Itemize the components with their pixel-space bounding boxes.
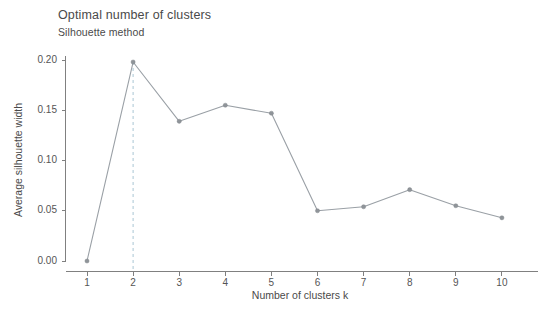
x-tick-label: 6 [315,277,321,288]
data-point [177,119,181,123]
y-tick-label: 0.10 [38,154,58,165]
x-tick-label: 4 [223,277,229,288]
y-tick-group: 0.000.050.100.150.20 [38,54,66,266]
x-tick-group: 12345678910 [84,272,508,289]
silhouette-series-line [87,62,502,261]
data-point [269,111,273,115]
x-tick-label: 2 [130,277,136,288]
data-point [500,216,504,220]
x-axis: 12345678910 Number of clusters k [66,272,539,302]
data-point [131,60,135,64]
x-axis-title: Number of clusters k [252,289,349,301]
x-tick-label: 3 [176,277,182,288]
silhouette-chart: Optimal number of clusters Silhouette me… [0,0,550,317]
x-tick-label: 7 [361,277,367,288]
data-point [454,204,458,208]
plot-area: 0.000.050.100.150.20 Average silhouette … [0,0,550,317]
data-point [85,259,89,263]
x-tick-label: 5 [269,277,275,288]
y-axis-title: Average silhouette width [12,103,24,217]
x-tick-label: 9 [453,277,459,288]
data-point [315,209,319,213]
y-tick-label: 0.00 [38,255,58,266]
y-axis: 0.000.050.100.150.20 Average silhouette … [12,54,66,266]
x-tick-label: 10 [496,277,508,288]
data-point [362,205,366,209]
y-tick-label: 0.15 [38,104,58,115]
y-tick-label: 0.20 [38,54,58,65]
y-tick-label: 0.05 [38,204,58,215]
x-tick-label: 8 [407,277,413,288]
x-tick-label: 1 [84,277,90,288]
data-point [223,103,227,107]
data-point [408,188,412,192]
